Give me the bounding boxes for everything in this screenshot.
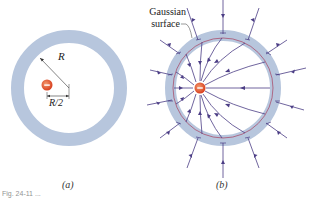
offset-label: R/2 xyxy=(49,97,63,108)
panel-a-label: (a) xyxy=(62,179,74,190)
gaussian-leader xyxy=(181,24,192,38)
gaussian-label-line1: Gaussian xyxy=(146,6,186,17)
panel-a xyxy=(18,37,121,140)
panel-b-label: (b) xyxy=(216,179,228,190)
gaussian-label-line2: surface xyxy=(146,18,180,29)
figure-caption: Fig. 24-11 ... xyxy=(2,190,41,197)
radius-label: R xyxy=(58,50,65,62)
figure-canvas xyxy=(0,0,317,199)
